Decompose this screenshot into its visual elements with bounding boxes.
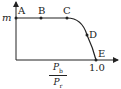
point-a (15, 17, 18, 20)
curve (16, 18, 96, 60)
point-b (40, 17, 43, 20)
label-c: C (63, 6, 71, 16)
label-d: D (89, 30, 97, 40)
point-c (66, 17, 69, 20)
x-axis-label: Pb Pr (49, 62, 67, 89)
label-b: B (38, 6, 45, 16)
x-tick-label: 1.0 (89, 63, 105, 73)
label-a: A (18, 6, 25, 16)
y-axis-label: m (2, 13, 11, 23)
label-e: E (98, 49, 105, 59)
